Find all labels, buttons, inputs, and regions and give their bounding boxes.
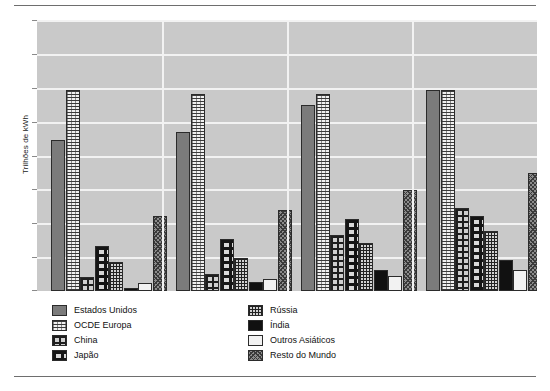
legend-swatch-icon	[52, 350, 67, 361]
plot-area	[37, 20, 537, 291]
legend-label: Índia	[270, 320, 290, 331]
legend-label: Rússia	[270, 305, 298, 316]
legend-item[interactable]: China	[52, 333, 137, 348]
legend-label: Estados Unidos	[74, 305, 137, 316]
top-divider-rule	[14, 5, 536, 6]
chart-legend: Estados UnidosOCDE EuropaChinaJapão Rúss…	[52, 303, 452, 365]
bar	[51, 140, 65, 291]
legend-item[interactable]: Outros Asiáticos	[248, 333, 336, 348]
bar	[205, 274, 219, 291]
bar-group	[37, 20, 162, 291]
bottom-divider-rule	[14, 376, 536, 377]
bar	[441, 90, 455, 291]
bar	[191, 94, 205, 291]
legend-swatch-icon	[248, 350, 263, 361]
legend-label: Resto do Mundo	[270, 350, 336, 361]
y-axis-title: Trilhões de kWh	[21, 90, 30, 200]
legend-label: Outros Asiáticos	[270, 335, 335, 346]
bar	[374, 270, 388, 291]
legend-label: China	[74, 335, 98, 346]
bar	[234, 258, 248, 291]
bar-group	[162, 20, 287, 291]
legend-item[interactable]: Resto do Mundo	[248, 348, 336, 363]
bar	[109, 262, 123, 291]
bar	[95, 246, 109, 291]
legend-item[interactable]: Estados Unidos	[52, 303, 137, 318]
legend-column-left: Estados UnidosOCDE EuropaChinaJapão	[52, 303, 137, 363]
bar	[470, 216, 484, 291]
legend-item[interactable]: Índia	[248, 318, 336, 333]
chart-figure: Trilhões de kWh Estados UnidosOCDE Europ…	[0, 0, 550, 391]
bar	[455, 208, 469, 291]
bar-group	[287, 20, 412, 291]
bar	[359, 243, 373, 291]
bar	[66, 90, 80, 291]
legend-item[interactable]: OCDE Europa	[52, 318, 137, 333]
legend-swatch-icon	[248, 335, 263, 346]
legend-swatch-icon	[52, 320, 67, 331]
bar	[330, 235, 344, 291]
bar	[316, 94, 330, 291]
bar	[249, 282, 263, 291]
bar	[263, 279, 277, 291]
legend-swatch-icon	[52, 335, 67, 346]
legend-column-right: RússiaÍndiaOutros AsiáticosResto do Mund…	[248, 303, 336, 363]
bar	[484, 231, 498, 291]
legend-label: Japão	[74, 350, 99, 361]
bar	[388, 276, 402, 291]
bar	[528, 173, 538, 291]
legend-label: OCDE Europa	[74, 320, 132, 331]
bar	[345, 219, 359, 291]
bar	[513, 270, 527, 291]
bar	[426, 90, 440, 291]
legend-item[interactable]: Rússia	[248, 303, 336, 318]
bar	[220, 239, 234, 291]
bar	[301, 105, 315, 291]
legend-item[interactable]: Japão	[52, 348, 137, 363]
legend-swatch-icon	[248, 320, 263, 331]
bar	[176, 132, 190, 291]
bar-group	[412, 20, 537, 291]
legend-swatch-icon	[248, 305, 263, 316]
bar	[124, 288, 138, 291]
bar	[138, 283, 152, 291]
bar	[499, 260, 513, 291]
bar	[80, 277, 94, 291]
legend-swatch-icon	[52, 305, 67, 316]
